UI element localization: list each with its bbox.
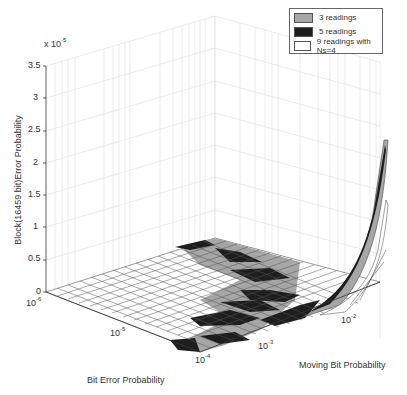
z-tick-1.5: 1.5 — [28, 189, 41, 199]
y-tick-0: 10-3 — [258, 339, 273, 351]
x-tick-0: 10-6 — [26, 296, 41, 308]
legend-item-3-readings: 3 readings — [294, 12, 356, 23]
legend-item-5-readings: 5 readings — [294, 26, 356, 37]
z-tick-0.5: 0.5 — [28, 253, 41, 263]
z-tick-2: 2 — [33, 157, 38, 167]
x-tick-2: 10-4 — [195, 353, 210, 365]
x-axis-label: Bit Error Probability — [87, 375, 165, 385]
plot-canvas — [0, 0, 407, 395]
z-tick-3: 3 — [33, 92, 38, 102]
z-tick-2.5: 2.5 — [28, 124, 41, 134]
z-multiplier: x 10-5 — [44, 37, 66, 49]
z-axis — [43, 66, 46, 292]
legend-swatch-grey — [294, 13, 313, 23]
z-axis-label: Block(16459 bit)Error Probability — [13, 100, 23, 260]
legend-item-9-readings: 9 readings with Ns=4 — [294, 40, 382, 51]
y-axis-label: Moving Bit Probability — [299, 360, 386, 370]
legend-swatch-white — [294, 41, 311, 51]
z-tick-3.5: 3.5 — [28, 60, 41, 70]
z-tick-1: 1 — [33, 221, 38, 231]
legend: 3 readings 5 readings 9 readings with Ns… — [289, 8, 383, 54]
x-tick-1: 10-5 — [110, 326, 125, 338]
legend-swatch-black — [294, 27, 313, 37]
y-tick-1: 10-2 — [341, 313, 356, 325]
z-tick-0: 0 — [36, 286, 41, 296]
